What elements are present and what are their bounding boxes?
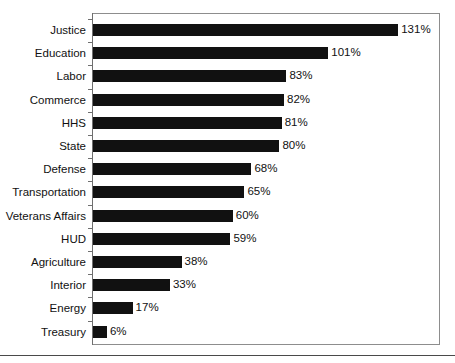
chart-title (0, 0, 455, 1)
bar-value-label: 65% (247, 183, 270, 199)
bar-fill (93, 233, 230, 245)
axis-tick (88, 42, 92, 43)
bar (93, 117, 282, 129)
bar (93, 94, 284, 106)
axis-tick (88, 181, 92, 182)
bar (93, 233, 230, 245)
bar-value-label: 101% (331, 44, 360, 60)
bar-fill (93, 24, 398, 36)
axis-tick (88, 19, 92, 20)
bar (93, 302, 133, 314)
bar-row: Treasury6% (0, 321, 455, 344)
category-label: Commerce (0, 92, 86, 109)
bar-fill (93, 117, 282, 129)
bar (93, 70, 286, 82)
axis-tick (88, 251, 92, 252)
category-label: Justice (0, 22, 86, 39)
bar-fill (93, 47, 328, 59)
axis-tick (88, 89, 92, 90)
category-label: Treasury (0, 324, 86, 341)
axis-tick (88, 274, 92, 275)
bar-row: Energy17% (0, 297, 455, 320)
bar-value-label: 80% (282, 137, 305, 153)
bar-fill (93, 326, 107, 338)
bar-fill (93, 210, 233, 222)
bar-value-label: 33% (173, 276, 196, 292)
bar-rows: Justice131%Education101%Labor83%Commerce… (0, 13, 455, 345)
bar-row: Labor83% (0, 65, 455, 88)
bar (93, 256, 182, 268)
bar-fill (93, 186, 244, 198)
bar-value-label: 81% (285, 114, 308, 130)
bar (93, 47, 328, 59)
category-label: Education (0, 45, 86, 62)
bottom-divider-rule (0, 355, 455, 356)
bar-fill (93, 256, 182, 268)
axis-tick (88, 112, 92, 113)
category-label: Agriculture (0, 254, 86, 271)
category-label: Defense (0, 161, 86, 178)
category-label: Veterans Affairs (0, 208, 86, 225)
bar-row: Veterans Affairs60% (0, 205, 455, 228)
bar-value-label: 131% (401, 21, 430, 37)
bar-value-label: 59% (233, 230, 256, 246)
bar-fill (93, 302, 133, 314)
bar-value-label: 38% (185, 253, 208, 269)
axis-tick (88, 228, 92, 229)
bar-row: Education101% (0, 42, 455, 65)
axis-tick (88, 158, 92, 159)
bar-row: Defense68% (0, 158, 455, 181)
axis-tick (88, 205, 92, 206)
category-label: Labor (0, 68, 86, 85)
bar-fill (93, 140, 279, 152)
bar-value-label: 83% (289, 67, 312, 83)
bar-value-label: 60% (236, 207, 259, 223)
bar-row: HHS81% (0, 112, 455, 135)
bar-fill (93, 163, 251, 175)
category-label: Energy (0, 300, 86, 317)
bar-row: Commerce82% (0, 89, 455, 112)
category-label: Interior (0, 277, 86, 294)
bar-fill (93, 279, 170, 291)
axis-tick (88, 65, 92, 66)
bar-fill (93, 70, 286, 82)
bar-value-label: 82% (287, 91, 310, 107)
bar-value-label: 68% (254, 160, 277, 176)
category-label: Transportation (0, 184, 86, 201)
bar-row: Agriculture38% (0, 251, 455, 274)
bar-row: State80% (0, 135, 455, 158)
bar-row: Interior33% (0, 274, 455, 297)
axis-tick (88, 135, 92, 136)
bar (93, 186, 244, 198)
bar-row: HUD59% (0, 228, 455, 251)
bar (93, 210, 233, 222)
bar (93, 279, 170, 291)
bar (93, 326, 107, 338)
bar-value-label: 17% (136, 299, 159, 315)
category-label: HUD (0, 231, 86, 248)
bar-value-label: 6% (110, 323, 127, 339)
bar (93, 163, 251, 175)
bar (93, 140, 279, 152)
bar-fill (93, 94, 284, 106)
axis-tick (88, 321, 92, 322)
axis-tick (88, 297, 92, 298)
category-label: State (0, 138, 86, 155)
bar-row: Justice131% (0, 19, 455, 42)
bar (93, 24, 398, 36)
category-label: HHS (0, 115, 86, 132)
bar-row: Transportation65% (0, 181, 455, 204)
